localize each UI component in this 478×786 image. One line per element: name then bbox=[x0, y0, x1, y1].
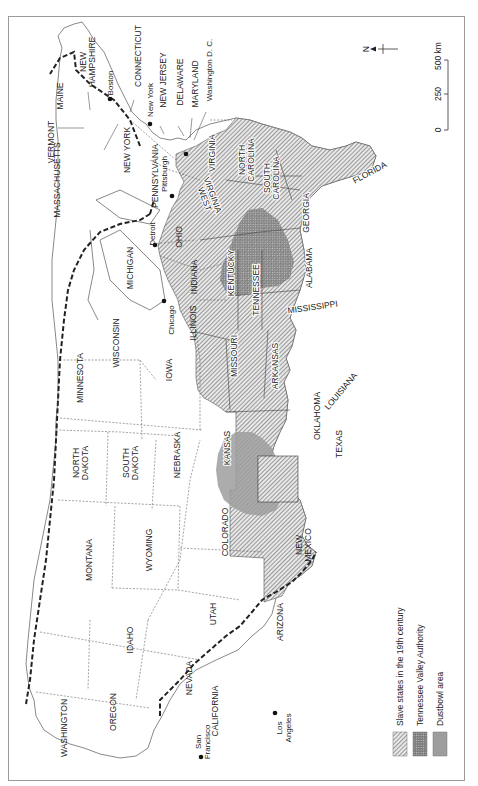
legend-swatch-dustbowl bbox=[433, 732, 447, 756]
label-boston: Boston bbox=[106, 71, 115, 96]
label-utah: UTAH bbox=[208, 603, 218, 626]
label-wyoming: WYOMING bbox=[144, 529, 154, 572]
label-pennsylvania: PENNSYLVANIA bbox=[150, 144, 160, 208]
label-virginia: VIRGINIA bbox=[207, 134, 217, 172]
label-nebraska: NEBRASKA bbox=[172, 432, 182, 479]
usa-map: N 0 250 500 km WASHINGTON OREGON IDA bbox=[0, 0, 478, 786]
label-san-francisco-1: San bbox=[194, 735, 203, 749]
label-washington-dc: Washington D. C. bbox=[205, 39, 214, 101]
label-los-angeles-1: Los bbox=[275, 722, 284, 735]
legend-swatch-slave-states bbox=[393, 732, 407, 756]
label-ohio: OHIO bbox=[174, 226, 184, 248]
label-detroit: Detroit bbox=[148, 221, 157, 245]
panhandle-hatch bbox=[258, 456, 298, 502]
label-kentucky: KENTUCKY bbox=[226, 250, 236, 297]
legend: Slave states in the 19th century Tenness… bbox=[393, 607, 447, 756]
label-arizona: ARIZONA bbox=[275, 603, 285, 641]
label-nevada: NEVADA bbox=[184, 661, 194, 696]
los-angeles-dot bbox=[273, 711, 278, 716]
label-tennessee: TENNESSEE bbox=[251, 264, 261, 316]
north-arrow: N bbox=[361, 44, 398, 54]
label-new-york: NEW YORK bbox=[122, 127, 132, 173]
legend-label-dustbowl: Dustbowl area bbox=[435, 671, 445, 726]
legend-label-tva: Tennessee Valley Authority bbox=[415, 624, 425, 726]
label-montana: MONTANA bbox=[84, 539, 94, 581]
new-york-dot bbox=[148, 122, 153, 127]
label-los-angeles-2: Angeles bbox=[284, 714, 293, 743]
label-washington: WASHINGTON bbox=[59, 699, 69, 757]
label-san-francisco-2: Francisco bbox=[203, 724, 212, 759]
label-maine: MAINE bbox=[55, 82, 65, 109]
label-new-york-city: New York bbox=[146, 82, 155, 117]
label-connecticut: CONNECTICUT bbox=[133, 25, 143, 87]
legend-label-slave-states: Slave states in the 19th century bbox=[395, 607, 405, 726]
north-label: N bbox=[361, 46, 371, 52]
pittsburgh-dot bbox=[170, 194, 175, 199]
scale-tick-0: 0 bbox=[433, 127, 443, 132]
label-south-carolina-2: CAROLINA bbox=[271, 156, 281, 200]
label-texas: TEXAS bbox=[334, 430, 344, 458]
label-north-dakota-2: DAKOTA bbox=[80, 446, 90, 481]
label-michigan: MICHIGAN bbox=[125, 247, 135, 290]
label-iowa: IOWA bbox=[164, 358, 174, 381]
label-new-hampshire-2: HAMPSHIRE bbox=[87, 36, 97, 87]
label-new-mexico-2: MEXICO bbox=[303, 528, 313, 562]
washington-dc-dot bbox=[184, 152, 189, 157]
legend-swatch-tva bbox=[413, 732, 427, 756]
boston-dot bbox=[108, 97, 113, 102]
label-colorado: COLORADO bbox=[220, 507, 230, 556]
label-wisconsin: WISCONSIN bbox=[111, 318, 121, 367]
label-pittsburgh: Pittsburgh bbox=[160, 156, 169, 192]
label-illinois: ILLINOIS bbox=[188, 305, 198, 340]
chicago-dot bbox=[162, 299, 167, 304]
scale-tick-250: 250 bbox=[433, 87, 443, 101]
label-south-dakota-2: DAKOTA bbox=[130, 446, 140, 481]
label-chicago: Chicago bbox=[167, 305, 176, 335]
label-georgia: GEORGIA bbox=[301, 193, 311, 233]
label-indiana: INDIANA bbox=[189, 259, 199, 294]
label-idaho: IDAHO bbox=[125, 626, 135, 653]
label-maryland: MARYLAND bbox=[190, 60, 200, 107]
label-louisiana: LOUISIANA bbox=[322, 370, 359, 411]
label-minnesota: MINNESOTA bbox=[75, 353, 85, 403]
label-massachusetts: MASSACHUSETTS bbox=[52, 142, 62, 218]
label-new-jersey: NEW JERSEY bbox=[158, 52, 168, 108]
scale-tick-500: 500 km bbox=[433, 42, 443, 70]
label-kansas: KANSAS bbox=[222, 430, 232, 465]
label-delaware: DELAWARE bbox=[175, 58, 185, 105]
label-missouri: MISSOURI bbox=[229, 335, 239, 377]
label-oklahoma: OKLAHOMA bbox=[312, 392, 322, 441]
label-arkansas: ARKANSAS bbox=[270, 343, 280, 390]
label-alabama: ALABAMA bbox=[304, 248, 314, 288]
scale-bar: 0 250 500 km bbox=[433, 42, 448, 132]
label-oregon: OREGON bbox=[108, 693, 118, 731]
label-north-carolina-2: CAROLINA bbox=[246, 138, 256, 182]
